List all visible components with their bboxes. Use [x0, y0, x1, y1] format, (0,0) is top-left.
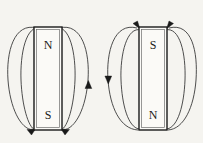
field-line-r-right-outer: [168, 27, 196, 130]
field-line-r-left-inner: [121, 30, 141, 129]
arrowhead-right-up: [85, 81, 92, 89]
field-line-r-right-inner: [165, 30, 185, 129]
right-magnet-north-label: N: [149, 108, 158, 122]
field-line-r-left-outer: [108, 27, 138, 130]
magnetic-field-diagram: N S S N: [0, 0, 203, 143]
arrowhead-r-left-down: [105, 76, 112, 84]
left-magnet-south-label: S: [45, 108, 52, 122]
left-magnet-north-label: N: [44, 38, 53, 52]
left-magnet-group: N S: [8, 27, 92, 135]
field-line-right-outer: [59, 27, 88, 130]
diagram-canvas: N S S N: [0, 0, 203, 143]
right-magnet-group: S N: [105, 21, 196, 130]
right-magnet-south-label: S: [150, 38, 157, 52]
field-line-left-outer: [8, 27, 37, 130]
